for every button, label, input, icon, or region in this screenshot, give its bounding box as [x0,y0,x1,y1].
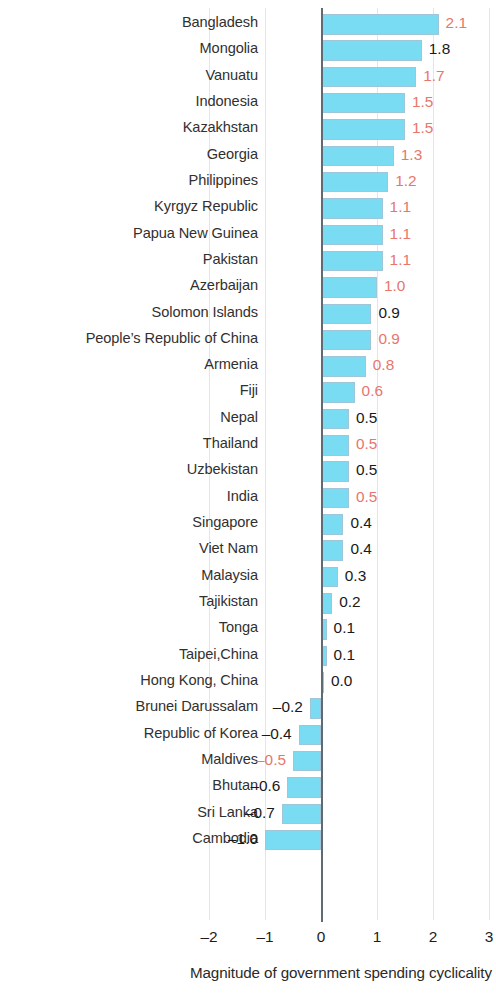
category-label: Georgia [6,145,258,164]
bar [321,567,338,588]
value-label: –0.5 [256,750,286,770]
category-label: Tonga [6,618,258,637]
bar-row: Kyrgyz Republic1.1 [0,195,496,221]
category-label: Thailand [6,434,258,453]
value-label: 0.9 [378,303,399,323]
category-label: Viet Nam [6,539,258,558]
bar-row: Tonga0.1 [0,616,496,642]
bar [321,40,422,61]
value-label: 0.1 [334,618,355,638]
bar-row: Tajikistan0.2 [0,590,496,616]
value-label: 1.5 [412,92,433,112]
bar-row: Solomon Islands0.9 [0,301,496,327]
bar [321,514,343,535]
value-label: –0.4 [262,724,292,744]
value-label: 1.1 [390,250,411,270]
x-tick-label: –1 [245,926,285,948]
x-tick-label: –2 [189,926,229,948]
value-label: 1.1 [390,224,411,244]
value-label: –1.0 [228,829,258,849]
bar [321,330,371,351]
bar [287,777,321,798]
value-label: –0.2 [273,697,303,717]
bar [321,593,332,614]
bar-row: Uzbekistan0.5 [0,458,496,484]
value-label: 1.3 [401,145,422,165]
category-label: Taipei,China [6,645,258,664]
category-label: Brunei Darussalam [6,697,258,716]
category-label: Bhutan [6,776,258,795]
bar [282,804,321,825]
category-label: India [6,487,258,506]
bar-row: Malaysia0.3 [0,564,496,590]
bar-chart: Bangladesh2.1Mongolia1.8Vanuatu1.7Indone… [0,0,496,994]
x-tick-label: 1 [357,926,397,948]
bar [299,725,321,746]
bar [321,14,439,35]
bar-row: Fiji0.6 [0,379,496,405]
bar-row: India0.5 [0,485,496,511]
category-label: Tajikistan [6,592,258,611]
zero-axis-line [321,8,323,922]
bar-row: Philippines1.2 [0,169,496,195]
category-label: Indonesia [6,92,258,111]
bar-row: Kazakhstan1.5 [0,116,496,142]
value-label: –0.7 [245,803,275,823]
category-label: Uzbekistan [6,460,258,479]
value-label: 0.4 [350,513,371,533]
value-label: 0.5 [356,434,377,454]
value-label: 0.5 [356,408,377,428]
value-label: 0.1 [334,645,355,665]
bar [321,146,394,167]
value-label: 0.8 [373,355,394,375]
bar [293,751,321,772]
bar [321,277,377,298]
bar-row: Vanuatu1.7 [0,64,496,90]
bar [321,93,405,114]
category-label: People’s Republic of China [6,329,258,348]
value-label: 1.0 [384,276,405,296]
bar-row: Bhutan–0.6 [0,774,496,800]
bar [321,461,349,482]
bar-row: Taipei,China0.1 [0,643,496,669]
bar-row: Singapore0.4 [0,511,496,537]
category-label: Armenia [6,355,258,374]
category-label: Mongolia [6,39,258,58]
value-label: 1.1 [390,197,411,217]
bar-row: Hong Kong, China0.0 [0,669,496,695]
category-label: Bangladesh [6,13,258,32]
category-label: Kazakhstan [6,118,258,137]
bar-row: Viet Nam0.4 [0,537,496,563]
bar-row: Sri Lanka–0.7 [0,801,496,827]
bar [321,198,383,219]
bar [321,119,405,140]
bar [321,251,383,272]
value-label: 1.2 [395,171,416,191]
bar [321,304,371,325]
category-label: Pakistan [6,250,258,269]
bar-row: Thailand0.5 [0,432,496,458]
value-label: 0.4 [350,539,371,559]
bar [321,356,366,377]
bar-row: Mongolia1.8 [0,37,496,63]
bar-row: Georgia1.3 [0,143,496,169]
x-axis-ticks: –2–10123 [0,926,496,952]
bar [321,540,343,561]
bar [321,409,349,430]
bar [321,225,383,246]
bar [321,435,349,456]
category-label: Cambodia [6,829,258,848]
category-label: Solomon Islands [6,303,258,322]
bar [321,382,355,403]
category-label: Malaysia [6,566,258,585]
category-label: Fiji [6,381,258,400]
bar [310,698,321,719]
value-label: 0.3 [345,566,366,586]
bar-row: Maldives–0.5 [0,748,496,774]
value-label: 2.1 [446,13,467,33]
bar-row: Brunei Darussalam–0.2 [0,695,496,721]
value-label: 0.2 [339,592,360,612]
plot-area: Bangladesh2.1Mongolia1.8Vanuatu1.7Indone… [0,0,496,922]
category-label: Nepal [6,408,258,427]
category-label: Philippines [6,171,258,190]
